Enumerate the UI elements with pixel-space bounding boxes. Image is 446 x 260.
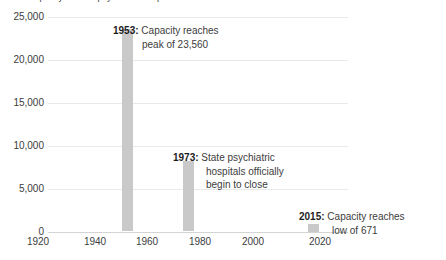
y-axis-tick-20000: 20,000 xyxy=(0,54,44,65)
x-axis-tick-1980: 1980 xyxy=(189,236,211,247)
annotation-1973-year: 1973: xyxy=(173,152,199,163)
annotation-1953-line1: Capacity reaches xyxy=(141,25,218,36)
annotation-1953-year: 1953: xyxy=(113,25,139,36)
annotation-2015: 2015: Capacity reaches low of 671 xyxy=(299,210,405,237)
gridline-20000 xyxy=(48,60,348,61)
y-axis-tick-10000: 10,000 xyxy=(0,140,44,151)
annotation-1973-line1: State psychiatric xyxy=(201,152,274,163)
annotation-1953: 1953: Capacity reaches peak of 23,560 xyxy=(113,24,219,51)
annotation-2015-year: 2015: xyxy=(299,211,325,222)
gridline-10000 xyxy=(48,146,348,147)
bar-chart: Capacity of state psychiatric hospitals … xyxy=(0,0,446,260)
gridline-25000 xyxy=(48,17,348,18)
y-axis-tick-25000: 25,000 xyxy=(0,11,44,22)
annotation-1973: 1973: State psychiatric hospitals offici… xyxy=(173,151,284,192)
annotation-1973-line3: begin to close xyxy=(173,178,284,192)
y-axis-tick-5000: 5,000 xyxy=(0,183,44,194)
y-axis-tick-15000: 15,000 xyxy=(0,97,44,108)
annotation-2015-line1: Capacity reaches xyxy=(327,211,404,222)
bar-1953 xyxy=(122,29,133,232)
annotation-1953-line2: peak of 23,560 xyxy=(113,38,219,52)
chart-title: Capacity of state psychiatric hospitals xyxy=(28,0,358,3)
gridline-15000 xyxy=(48,103,348,104)
x-axis-tick-1960: 1960 xyxy=(136,236,158,247)
x-axis-tick-1940: 1940 xyxy=(84,236,106,247)
x-axis-tick-1920: 1920 xyxy=(27,236,49,247)
x-axis-tick-2020: 2020 xyxy=(309,236,331,247)
chart-title-clipped: Capacity of state psychiatric hospitals xyxy=(28,0,358,5)
annotation-1973-line2: hospitals officially xyxy=(173,165,284,179)
annotation-2015-line2: low of 671 xyxy=(299,224,405,238)
x-axis-tick-2000: 2000 xyxy=(242,236,264,247)
